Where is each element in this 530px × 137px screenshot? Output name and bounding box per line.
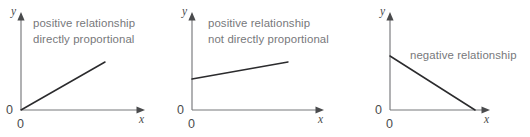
data-line [390,56,475,110]
chart-caption-2: positive relationship not directly propo… [208,16,329,47]
y-origin-label: 0 [6,103,13,117]
y-axis-label: y [181,5,188,18]
chart-caption-1: positive relationship directly proportio… [33,16,135,47]
y-axis-arrow-icon [188,12,195,21]
y-axis-arrow-icon [17,12,24,21]
y-origin-label: 0 [375,103,382,117]
data-line [21,62,105,110]
x-axis-label: x [138,113,145,125]
caption-line-2: directly proportional [33,32,135,48]
y-axis-label: y [10,5,17,18]
x-origin-label: 0 [386,117,393,131]
caption-line-2: not directly proportional [208,32,329,48]
data-line [192,62,288,79]
caption-line-1: positive relationship [208,16,329,32]
y-axis-label: y [379,5,386,18]
caption-line-1: negative relationship [410,48,517,64]
x-origin-label: 0 [17,117,24,131]
caption-line-1: positive relationship [33,16,135,32]
y-origin-label: 0 [177,103,184,117]
x-origin-label: 0 [188,117,195,131]
y-axis-arrow-icon [386,12,393,21]
chart-caption-3: negative relationship [410,48,517,64]
relationship-graphs-figure: y x 0 0 positive relationship directly p… [0,0,530,137]
chart-panel-negative-relationship: y x 0 0 negative relationship [355,0,530,137]
x-axis-label: x [317,113,324,125]
x-axis-label: x [483,113,490,125]
chart-svg-3: y x 0 0 [355,0,530,137]
chart-panel-not-directly-proportional: y x 0 0 positive relationship not direct… [170,0,355,137]
chart-panel-directly-proportional: y x 0 0 positive relationship directly p… [0,0,170,137]
